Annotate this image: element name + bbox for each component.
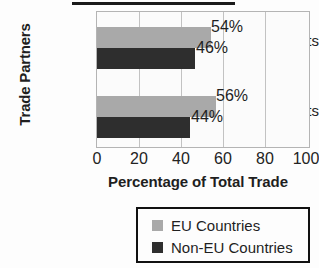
legend-label-eu: EU Countries bbox=[171, 217, 260, 234]
legend-item-eu: EU Countries bbox=[152, 214, 308, 236]
legend-swatch-eu-icon bbox=[152, 220, 163, 231]
x-tick-80: 80 bbox=[245, 150, 285, 168]
x-tick-0: 0 bbox=[77, 150, 117, 168]
value-label-imports-non-eu: 44% bbox=[191, 109, 223, 125]
y-axis-title: Trade Partners bbox=[16, 5, 33, 145]
x-tick-100: 100 bbox=[286, 150, 319, 168]
bar-imports-non-eu bbox=[97, 117, 190, 138]
x-tick-60: 60 bbox=[203, 150, 243, 168]
x-tick-20: 20 bbox=[119, 150, 159, 168]
chart-legend: EU Countries Non-EU Countries bbox=[136, 207, 310, 263]
legend-item-non-eu: Non-EU Countries bbox=[152, 236, 308, 258]
x-tick-40: 40 bbox=[161, 150, 201, 168]
plot-area bbox=[96, 11, 310, 148]
value-label-imports-eu: 56% bbox=[216, 88, 248, 104]
gridline-80 bbox=[265, 12, 266, 147]
value-label-exports-eu: 54% bbox=[211, 19, 243, 35]
value-label-exports-non-eu: 46% bbox=[196, 40, 228, 56]
bar-exports-non-eu bbox=[97, 48, 195, 69]
legend-swatch-non-eu-icon bbox=[152, 242, 163, 253]
legend-label-non-eu: Non-EU Countries bbox=[171, 239, 293, 256]
chart-figure: Trade Partners Exports Imports 54% 46% 5… bbox=[0, 0, 319, 268]
bar-exports-eu bbox=[97, 27, 211, 48]
x-axis-title: Percentage of Total Trade bbox=[78, 173, 318, 190]
title-rule-divider bbox=[72, 2, 235, 5]
